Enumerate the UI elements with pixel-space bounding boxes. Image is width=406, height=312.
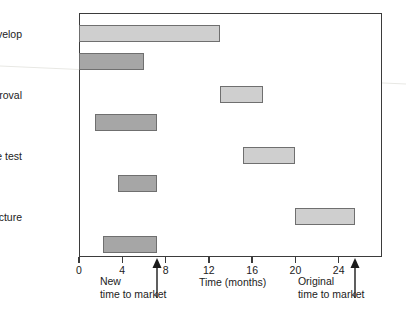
x-tick-label-12: 12 (203, 264, 215, 276)
category-label-site-test: Site test (0, 150, 22, 162)
x-axis-title: Time (months) (199, 276, 266, 288)
annotation-new-time-to-market: Newtime to market (100, 275, 167, 301)
category-label-manufacture: Manufacture (0, 211, 22, 223)
x-tick-4 (122, 257, 123, 263)
category-label-approval: Approval (0, 89, 22, 101)
x-tick-12 (208, 257, 209, 263)
x-tick-label-16: 16 (246, 264, 258, 276)
bar-develop-dark (79, 53, 144, 70)
annotation-original-time-to-market: Originaltime to market (298, 275, 365, 301)
bar-manufacture-dark (103, 236, 157, 253)
bar-site-test-light (243, 147, 295, 164)
bar-site-test-dark (118, 175, 157, 192)
annotation-line-2: time to market (298, 288, 365, 301)
annotation-line-1: Original (298, 275, 334, 287)
x-tick-label-0: 0 (76, 264, 82, 276)
annotation-line-1: New (100, 275, 121, 287)
category-label-develop: Develop (0, 28, 22, 40)
x-tick-8 (165, 257, 166, 263)
x-tick-20 (295, 257, 296, 263)
x-tick-16 (251, 257, 252, 263)
bar-develop-light (79, 25, 220, 42)
bar-manufacture-light (295, 208, 355, 225)
bar-approval-light (220, 86, 263, 103)
annotation-line-2: time to market (100, 288, 167, 301)
gantt-chart-figure: Develop Approval Site test Manufacture 0… (0, 0, 406, 312)
x-tick-0 (78, 257, 79, 263)
x-tick-24 (338, 257, 339, 263)
bar-approval-dark (95, 114, 157, 131)
bars-layer (79, 13, 382, 257)
